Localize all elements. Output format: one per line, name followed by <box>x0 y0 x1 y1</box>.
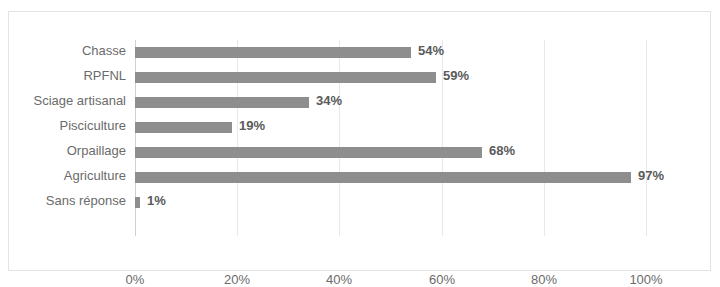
bar-value-label: 19% <box>239 118 265 133</box>
gridline-100 <box>646 40 647 236</box>
bars-layer: Chasse 54% RPFNL 59% Sciage artisanal 34… <box>135 40 646 236</box>
bar[interactable] <box>135 122 232 133</box>
bar-row: Chasse 54% <box>135 40 646 65</box>
plot-area: Chasse 54% RPFNL 59% Sciage artisanal 34… <box>135 40 646 236</box>
bar-row: Agriculture 97% <box>135 165 646 190</box>
bar[interactable] <box>135 72 436 83</box>
bar-row: Orpaillage 68% <box>135 140 646 165</box>
category-label: RPFNL <box>83 68 126 83</box>
bar-row: Pisciculture 19% <box>135 115 646 140</box>
category-label: Chasse <box>82 43 126 58</box>
category-label: Sciage artisanal <box>34 93 127 108</box>
bar-row: Sciage artisanal 34% <box>135 90 646 115</box>
bar-value-label: 34% <box>316 93 342 108</box>
bar-value-label: 59% <box>443 68 469 83</box>
bar[interactable] <box>135 47 411 58</box>
bar-value-label: 1% <box>147 193 166 208</box>
bar-value-label: 68% <box>489 143 515 158</box>
x-tick-label-60: 60% <box>429 272 455 287</box>
chart-frame: Chasse 54% RPFNL 59% Sciage artisanal 34… <box>8 11 711 271</box>
bar[interactable] <box>135 197 140 208</box>
x-tick-label-0: 0% <box>126 272 145 287</box>
x-tick-label-80: 80% <box>531 272 557 287</box>
x-tick-label-20: 20% <box>224 272 250 287</box>
category-label: Sans réponse <box>46 193 126 208</box>
bar[interactable] <box>135 97 309 108</box>
x-tick-label-40: 40% <box>326 272 352 287</box>
bar[interactable] <box>135 147 482 158</box>
bar-value-label: 54% <box>418 43 444 58</box>
category-label: Pisciculture <box>60 118 126 133</box>
bar-value-label: 97% <box>638 168 664 183</box>
category-label: Agriculture <box>64 168 126 183</box>
category-label: Orpaillage <box>67 143 126 158</box>
bar[interactable] <box>135 172 631 183</box>
bar-row: Sans réponse 1% <box>135 190 646 215</box>
x-tick-label-100: 100% <box>629 272 662 287</box>
bar-row: RPFNL 59% <box>135 65 646 90</box>
